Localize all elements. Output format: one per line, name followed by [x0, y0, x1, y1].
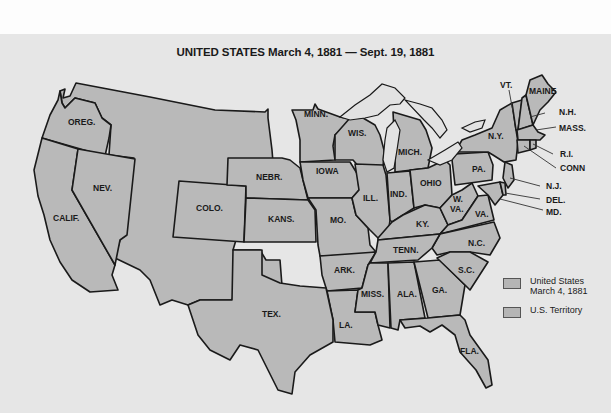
label-indiana: IND.	[390, 189, 407, 199]
mass-leader-line	[536, 127, 556, 130]
label-pennsylvania: PA.	[472, 164, 486, 174]
state-maine	[526, 75, 556, 125]
label-massachusetts: MASS.	[559, 123, 586, 133]
label-vermont: VT.	[500, 80, 512, 90]
state-connecticut	[517, 140, 530, 153]
label-arkansas: ARK.	[334, 265, 355, 275]
label-virginia: VA.	[475, 209, 489, 219]
label-missouri: MO.	[330, 215, 346, 225]
label-new-york: N.Y.	[488, 131, 504, 141]
label-west-virginia-1: W.	[453, 194, 463, 204]
label-mississippi: MISS.	[361, 289, 384, 299]
us-map	[0, 0, 611, 413]
label-alabama: ALA.	[397, 289, 417, 299]
legend-item-united-states: United States March 4, 1881	[503, 276, 588, 296]
label-maine: MAINE	[529, 86, 556, 96]
label-south-carolina: S.C.	[458, 265, 475, 275]
label-georgia: GA.	[432, 285, 447, 295]
label-michigan: MICH.	[398, 147, 422, 157]
label-maryland: MD.	[546, 207, 562, 217]
label-wisconsin: WIS.	[348, 128, 366, 138]
label-delaware: DEL.	[546, 195, 565, 205]
state-wisconsin	[335, 118, 384, 168]
lake-ontario	[462, 120, 485, 132]
legend-swatch-states	[503, 278, 521, 289]
label-ohio: OHIO	[420, 178, 442, 188]
label-california: CALIF.	[53, 213, 79, 223]
legend-label-line1: United States	[530, 276, 588, 286]
label-rhode-island: R.I.	[560, 149, 573, 159]
label-oregon: OREG.	[68, 117, 95, 127]
label-louisiana: LA.	[339, 320, 353, 330]
label-kansas: KANS.	[268, 214, 294, 224]
legend-item-territory: U.S. Territory	[503, 305, 588, 318]
label-tennessee: TENN.	[393, 245, 419, 255]
label-new-jersey: N.J.	[546, 181, 562, 191]
md-leader-line	[500, 199, 543, 210]
label-texas: TEX.	[262, 309, 281, 319]
label-iowa: IOWA	[316, 166, 339, 176]
legend-swatch-territory	[503, 307, 521, 318]
label-florida: FLA.	[460, 346, 479, 356]
label-new-hampshire: N.H.	[559, 107, 576, 117]
label-nevada: NEV.	[93, 183, 112, 193]
label-minnesota: MINN.	[304, 109, 328, 119]
label-north-carolina: N.C.	[468, 238, 485, 248]
nj-leader-line	[510, 178, 540, 186]
label-kentucky: KY.	[416, 219, 429, 229]
label-west-virginia-2: VA.	[450, 204, 464, 214]
label-connecticut: CONN	[560, 163, 585, 173]
map-page: UNITED STATES March 4, 1881 — Sept. 19, …	[0, 0, 611, 413]
map-legend: United States March 4, 1881 U.S. Territo…	[503, 276, 588, 327]
label-colorado: COLO.	[196, 203, 223, 213]
del-leader-line	[505, 193, 540, 199]
label-illinois: ILL.	[363, 193, 378, 203]
label-nebraska: NEBR.	[256, 172, 282, 182]
conn-leader-line	[524, 146, 556, 168]
legend-label-territory: U.S. Territory	[530, 305, 582, 315]
legend-label-line2: March 4, 1881	[530, 286, 588, 296]
ri-leader-line	[533, 144, 553, 154]
